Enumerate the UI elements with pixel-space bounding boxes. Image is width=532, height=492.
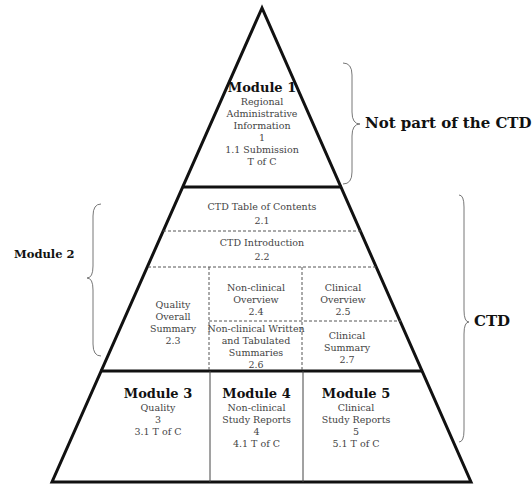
- module1-line: Regional: [212, 96, 312, 108]
- brace-not-ctd: [343, 63, 360, 184]
- qos-line: Summary: [138, 323, 208, 335]
- module3-line: Quality: [108, 402, 208, 414]
- ctd-toc-name: CTD Table of Contents: [182, 200, 342, 214]
- ctd-intro-num: 2.2: [182, 250, 342, 264]
- ctd-toc-num: 2.1: [182, 214, 342, 228]
- module1-line: 1: [212, 132, 312, 144]
- module1-line: 1.1 Submission: [212, 144, 312, 156]
- ctd-intro-name: CTD Introduction: [182, 236, 342, 250]
- c-overview-cell: Clinical Overview 2.5: [303, 282, 383, 318]
- brace-ctd: [459, 195, 469, 442]
- nc-overview-line: Non-clinical: [210, 282, 302, 294]
- module3-line: 3.1 T of C: [108, 426, 208, 438]
- brace-module2: [87, 204, 101, 356]
- nc-summaries-line: Non-clinical Written: [205, 323, 307, 335]
- module1-section: Module 1 Regional Administrative Informa…: [212, 80, 312, 168]
- module4-section: Module 4 Non-clinical Study Reports 4 4.…: [210, 386, 303, 450]
- c-summary-cell: Clinical Summary 2.7: [303, 330, 391, 366]
- ctd-intro-cell: CTD Introduction 2.2: [182, 236, 342, 264]
- module1-title: Module 1: [212, 80, 312, 96]
- c-overview-line: Overview: [303, 294, 383, 306]
- module5-line: Clinical: [306, 402, 406, 414]
- nc-summaries-line: Summaries: [205, 347, 307, 359]
- module2-label: Module 2: [14, 247, 75, 261]
- nc-summaries-line: and Tabulated: [205, 335, 307, 347]
- module5-line: Study Reports: [306, 414, 406, 426]
- c-summary-line: 2.7: [303, 354, 391, 366]
- qos-line: Quality: [138, 299, 208, 311]
- c-overview-line: 2.5: [303, 306, 383, 318]
- module5-title: Module 5: [306, 386, 406, 402]
- ctd-toc-cell: CTD Table of Contents 2.1: [182, 200, 342, 228]
- nc-overview-line: 2.4: [210, 306, 302, 318]
- module1-line: Information: [212, 120, 312, 132]
- module5-line: 5: [306, 426, 406, 438]
- module4-line: Study Reports: [210, 414, 303, 426]
- module4-title: Module 4: [210, 386, 303, 402]
- c-summary-line: Summary: [303, 342, 391, 354]
- module3-line: 3: [108, 414, 208, 426]
- module1-line: T of C: [212, 156, 312, 168]
- module1-line: Administrative: [212, 108, 312, 120]
- module4-line: 4.1 T of C: [210, 438, 303, 450]
- nc-summaries-cell: Non-clinical Written and Tabulated Summa…: [205, 323, 307, 371]
- module5-section: Module 5 Clinical Study Reports 5 5.1 T …: [306, 386, 406, 450]
- c-overview-line: Clinical: [303, 282, 383, 294]
- qos-line: 2.3: [138, 335, 208, 347]
- nc-overview-cell: Non-clinical Overview 2.4: [210, 282, 302, 318]
- c-summary-line: Clinical: [303, 330, 391, 342]
- module3-title: Module 3: [108, 386, 208, 402]
- ctd-label: CTD: [474, 312, 510, 330]
- qos-line: Overall: [138, 311, 208, 323]
- module4-line: 4: [210, 426, 303, 438]
- module4-line: Non-clinical: [210, 402, 303, 414]
- nc-summaries-line: 2.6: [205, 359, 307, 371]
- not-ctd-label: Not part of the CTD: [365, 114, 532, 132]
- module5-line: 5.1 T of C: [306, 438, 406, 450]
- nc-overview-line: Overview: [210, 294, 302, 306]
- qos-cell: Quality Overall Summary 2.3: [138, 299, 208, 347]
- module3-section: Module 3 Quality 3 3.1 T of C: [108, 386, 208, 438]
